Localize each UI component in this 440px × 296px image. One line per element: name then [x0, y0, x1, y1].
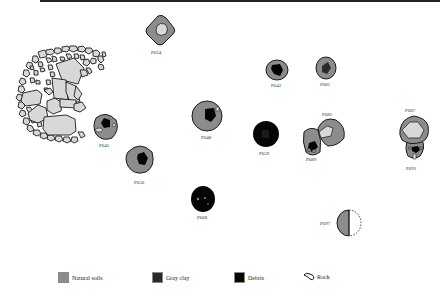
- label-p659: P659: [259, 151, 269, 156]
- legend-debris: Debris: [234, 272, 264, 283]
- feature-p697: [337, 210, 361, 236]
- label-p668: P668: [197, 215, 207, 220]
- stone-wall-feature: [16, 46, 106, 143]
- legend-gray-clay: Gray clay: [152, 272, 190, 283]
- gray-clay-swatch: [152, 272, 163, 283]
- feature-p681: [316, 57, 336, 79]
- feature-p656: [126, 146, 153, 173]
- rock-icon: [303, 272, 315, 281]
- legend-label: Gray clay: [166, 275, 190, 281]
- legend-rock: Rock: [303, 272, 330, 281]
- label-p648: P648: [201, 135, 211, 140]
- feature-p642: [266, 60, 288, 80]
- legend-label: Natural soils: [72, 275, 103, 281]
- label-p697: P697: [320, 221, 330, 226]
- label-p687: P687: [405, 108, 415, 113]
- debris-swatch: [234, 272, 245, 283]
- site-plan-diagram: [0, 0, 440, 296]
- label-p689: P689: [306, 157, 316, 162]
- feature-p687: [400, 116, 429, 144]
- label-p645: P645: [99, 143, 109, 148]
- feature-p659: [253, 121, 279, 147]
- label-p656: P656: [134, 180, 144, 185]
- label-p691: P691: [406, 166, 416, 171]
- label-p685: P685: [322, 112, 332, 117]
- label-p642: P642: [271, 83, 281, 88]
- feature-p648: [192, 101, 222, 131]
- natural-soils-swatch: [58, 272, 69, 283]
- legend-natural-soils: Natural soils: [58, 272, 103, 283]
- feature-p624: [146, 15, 175, 45]
- feature-p668: [191, 186, 215, 212]
- label-p624: P624: [151, 50, 161, 55]
- label-p681: P681: [320, 82, 330, 87]
- feature-p645: [94, 114, 117, 139]
- feature-p689: [303, 128, 320, 155]
- legend-label: Rock: [317, 274, 330, 280]
- legend-label: Debris: [248, 275, 264, 281]
- feature-p685: [318, 119, 344, 146]
